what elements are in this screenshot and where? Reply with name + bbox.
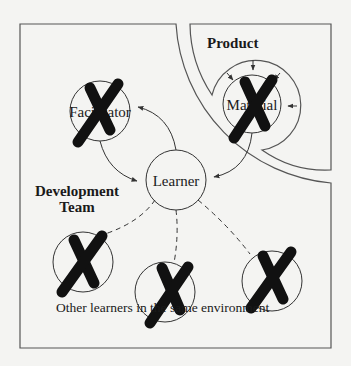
node-learner: Learner [146,150,206,210]
peers-caption: Other learners in the same environment [56,300,270,315]
diagram-canvas: Product Material Facilitator Learner [0,0,351,366]
node-peer-left [53,232,113,292]
cross-out-icon [62,236,102,292]
node-facilitator: Facilitator [69,81,131,142]
dev-team-label-line1: Development [35,183,119,199]
dev-team-label-line2: Team [59,199,95,215]
node-material: Material [223,75,281,138]
product-label: Product [207,35,258,51]
learner-label: Learner [153,173,200,189]
